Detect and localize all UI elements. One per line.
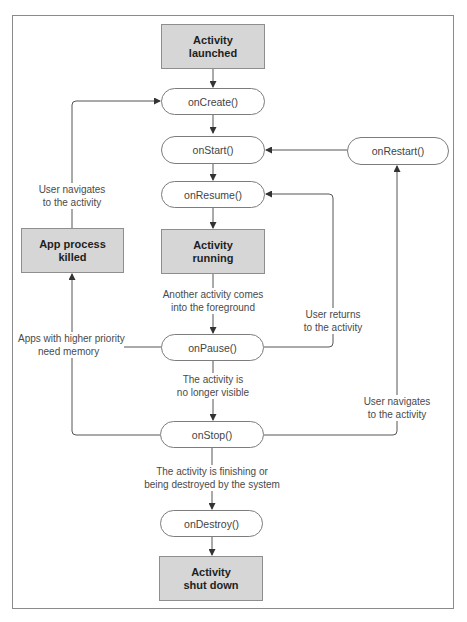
edge-label-user-navigates-left: User navigates to the activity [36, 183, 108, 209]
state-label: Activity [193, 34, 233, 46]
label-line: The activity is [173, 373, 253, 386]
edge-label-user-navigates-right: User navigates to the activity [360, 395, 434, 421]
callback-ondestroy: onDestroy() [160, 510, 263, 537]
callback-onrestart: onRestart() [347, 137, 449, 165]
label-line: into the foreground [158, 301, 268, 314]
label-line: User returns [299, 308, 367, 321]
state-label: App process [39, 238, 106, 250]
edge-label-another-activity: Another activity comes into the foregrou… [158, 288, 268, 314]
callback-onpause: onPause() [161, 334, 264, 361]
label-line: Another activity comes [158, 288, 268, 301]
label-line: to the activity [299, 321, 367, 334]
state-label: launched [189, 47, 237, 59]
state-label: killed [58, 251, 86, 263]
label-line: The activity is finishing or [142, 465, 282, 478]
state-activity-running: Activity running [161, 229, 265, 274]
label-line: no longer visible [173, 386, 253, 399]
label-line: to the activity [360, 408, 434, 421]
callback-oncreate: onCreate() [161, 88, 265, 115]
label-line: User navigates [360, 395, 434, 408]
state-label: Activity [193, 239, 233, 251]
state-activity-launched: Activity launched [161, 24, 265, 69]
label-line: User navigates [36, 183, 108, 196]
state-activity-shut-down: Activity shut down [159, 556, 263, 601]
callback-onresume: onResume() [161, 181, 265, 208]
state-app-process-killed: App process killed [21, 228, 124, 273]
label-line: Apps with higher priority [18, 332, 124, 345]
edge-label-higher-priority: Apps with higher priority need memory [18, 332, 124, 358]
edge-label-user-returns: User returns to the activity [299, 308, 367, 334]
edge-label-no-longer-visible: The activity is no longer visible [173, 373, 253, 399]
label-line: being destroyed by the system [142, 478, 282, 491]
state-label: shut down [184, 579, 239, 591]
state-label: running [193, 252, 234, 264]
label-line: need memory [18, 345, 124, 358]
state-label: Activity [191, 566, 231, 578]
callback-onstart: onStart() [161, 136, 265, 164]
label-line: to the activity [36, 196, 108, 209]
callback-onstop: onStop() [160, 421, 264, 448]
edge-label-finishing: The activity is finishing or being destr… [142, 465, 282, 491]
